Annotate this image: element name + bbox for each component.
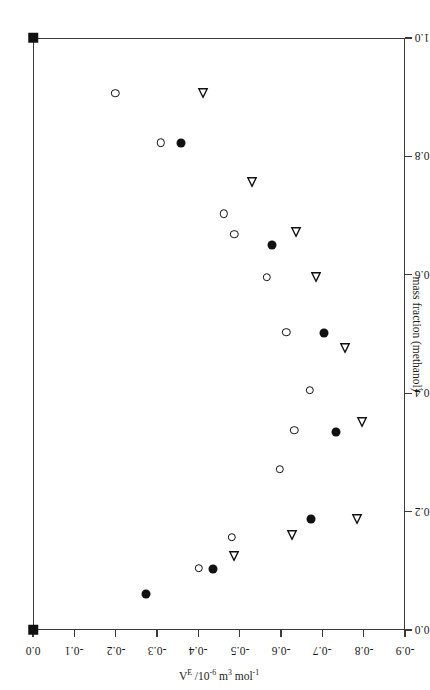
- y-tick-label: -0.3: [144, 645, 170, 657]
- y-tick-mark: [322, 630, 323, 637]
- plot-frame: [33, 38, 405, 630]
- data-point-open-triangle-left: [357, 417, 368, 428]
- y-tick-mark: [198, 630, 199, 637]
- x-tick-mark: [405, 274, 412, 275]
- y-tick-label: -0.8: [351, 645, 377, 657]
- y-tick-label: -0.1: [61, 645, 87, 657]
- y-tick-label: -0.7: [309, 645, 335, 657]
- data-point-open-triangle-left: [287, 530, 298, 541]
- data-point-filled-circle: [332, 428, 341, 437]
- data-point-filled-circle: [208, 565, 217, 574]
- data-point-open-triangle-left: [352, 513, 363, 524]
- y-tick-mark: [156, 630, 157, 637]
- x-tick-label: 1.0: [415, 32, 430, 44]
- y-tick-mark: [74, 630, 75, 637]
- data-point-filled-circle: [142, 589, 151, 598]
- data-point-filled-square: [28, 33, 38, 43]
- x-tick-mark: [405, 511, 412, 512]
- data-point-filled-circle: [176, 138, 185, 147]
- x-tick-label: 0.2: [415, 506, 430, 518]
- data-point-filled-circle: [267, 241, 276, 250]
- x-tick-mark: [405, 393, 412, 394]
- data-point-open-triangle-left: [197, 88, 208, 99]
- y-tick-label: -0.9: [392, 645, 418, 657]
- y-tick-mark: [363, 630, 364, 637]
- data-point-open-triangle-left: [291, 227, 302, 238]
- y-tick-mark: [115, 630, 116, 637]
- y-axis-title-mid: /10: [192, 670, 210, 682]
- y-tick-label: -0.4: [185, 645, 211, 657]
- data-point-open-triangle-left: [311, 272, 322, 283]
- data-point-open-triangle-left: [247, 176, 258, 187]
- y-tick-label: -0.5: [227, 645, 253, 657]
- x-tick-mark: [405, 37, 412, 38]
- y-tick-mark: [404, 630, 405, 637]
- y-axis-title-unit-mol: mol: [232, 670, 253, 682]
- data-point-open-triangle-left: [229, 551, 240, 562]
- y-tick-label: -0.2: [103, 645, 129, 657]
- y-tick-mark: [239, 630, 240, 637]
- y-tick-label: 0.0: [20, 645, 46, 657]
- x-tick-mark: [405, 156, 412, 157]
- data-point-filled-square: [28, 625, 38, 635]
- x-tick-label: 0.0: [415, 624, 430, 636]
- y-axis-title-unit-mol-sup: -1: [253, 668, 260, 677]
- y-axis-title: VE /10-6 m3 mol-1: [179, 670, 259, 682]
- data-point-filled-circle: [306, 514, 315, 523]
- x-axis-title: mass fraction (methanol): [411, 277, 423, 392]
- y-tick-mark: [280, 630, 281, 637]
- x-tick-label: 0.8: [415, 150, 430, 162]
- x-tick-mark: [405, 629, 412, 630]
- data-point-filled-circle: [319, 328, 328, 337]
- y-axis-title-unit-m: m: [216, 670, 228, 682]
- data-point-open-triangle-left: [340, 343, 351, 354]
- y-tick-label: -0.6: [268, 645, 294, 657]
